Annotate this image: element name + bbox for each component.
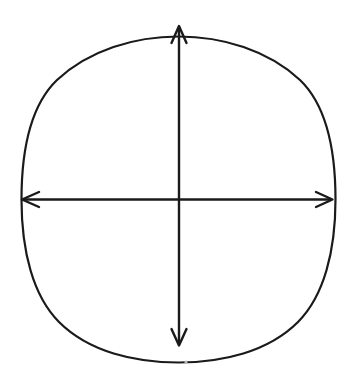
- circle-diameter-diagram: [0, 0, 350, 373]
- page-background: [0, 0, 350, 373]
- scan-speck: [184, 360, 187, 363]
- figure-canvas: [0, 0, 350, 373]
